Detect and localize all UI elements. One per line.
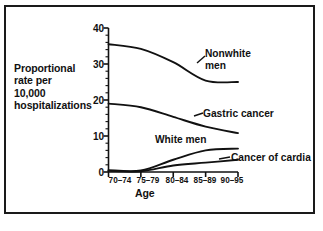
series-line-gastric-cancer — [109, 104, 239, 134]
leader-line-gastric-cancer — [194, 113, 203, 116]
leader-line-cancer-of-cardia — [219, 157, 230, 159]
figure-panel: Proportional rate per 10,000 hospitaliza… — [0, 0, 323, 231]
label-leader-lines — [194, 56, 230, 159]
leader-line-nonwhite-men — [197, 56, 205, 63]
series-lines — [109, 44, 239, 171]
series-line-white-men — [109, 149, 239, 172]
plot-area — [0, 0, 323, 231]
series-line-nonwhite-men — [109, 44, 239, 82]
series-line-cancer-of-cardia — [109, 160, 239, 172]
axes — [104, 28, 239, 177]
